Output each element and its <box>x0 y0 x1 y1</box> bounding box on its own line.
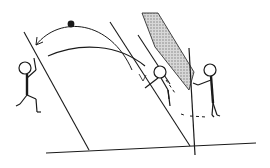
ball <box>68 21 75 28</box>
right-player <box>193 64 220 117</box>
shaded-band <box>142 13 194 90</box>
left-slanted-line <box>24 32 89 150</box>
ground-line <box>46 143 256 153</box>
diagram-canvas <box>0 0 270 168</box>
left-player <box>16 58 41 112</box>
second-arc <box>48 47 145 66</box>
arrow-head-small-icon <box>139 74 146 81</box>
middle-player <box>145 66 170 106</box>
vertical-pole <box>189 48 195 155</box>
